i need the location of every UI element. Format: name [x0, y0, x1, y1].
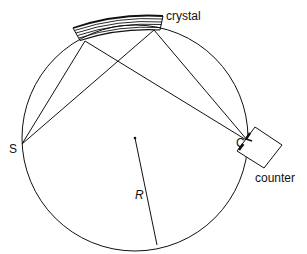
crystal: [73, 16, 163, 41]
crystal-label: crystal: [166, 10, 201, 22]
rowland-circle-diagram: [0, 0, 307, 254]
ray-lines: [22, 30, 248, 144]
counter-label: counter: [255, 172, 295, 184]
center-dot: [134, 137, 137, 140]
counter-point-label: C: [236, 137, 245, 149]
radius-label: R: [135, 189, 144, 201]
source-label: S: [9, 143, 17, 155]
